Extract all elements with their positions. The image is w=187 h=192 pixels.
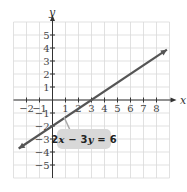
y-tick-label: 2 [43,69,49,80]
x-tick-label: 1 [62,103,68,114]
y-tick-label: 3 [43,56,49,67]
x-tick-label: 8 [153,103,159,114]
y-tick-label: −1 [35,108,50,119]
y-tick-label: −5 [35,160,50,171]
x-tick-label: 3 [88,103,94,114]
y-tick-label: 4 [43,43,49,54]
x-axis-label: x [180,94,187,107]
y-tick-label: 1 [43,82,49,93]
coordinate-plane: −2−11234567854321−1−2−3−4−5 x y [0,0,187,192]
y-tick-label: 5 [43,30,49,41]
x-tick-label: 6 [127,103,133,114]
x-axis-arrow-icon [171,98,177,103]
equation-label: 2x − 3y = 6 [57,129,111,149]
eq-rhs: = 6 [94,134,117,145]
x-tick-label: 5 [114,103,120,114]
eq-mid: − 3 [65,134,88,145]
y-axis-label: y [48,6,56,19]
x-tick-label: 7 [140,103,146,114]
x-tick-label: 4 [101,103,107,114]
y-tick-label: −4 [35,147,50,158]
